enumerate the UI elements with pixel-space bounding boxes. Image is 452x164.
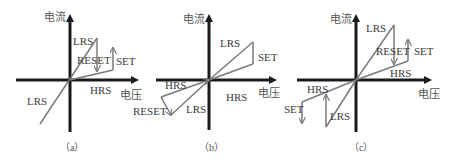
set-label-bottom: SET <box>284 103 304 115</box>
y-axis-label: 电流 <box>330 12 352 26</box>
reset-label: RESET <box>133 105 167 117</box>
panel-c: 电流 电压 LRS RESET SET HRS HRS SET LRS （c） <box>284 12 440 153</box>
caption-b: （b） <box>199 142 224 153</box>
caption-a: （a） <box>60 142 84 153</box>
iv-diagram: 电流 电压 LRS RESET SET HRS LRS （a） 电流 电压 LR… <box>0 0 452 164</box>
y-axis-label: 电流 <box>44 10 66 24</box>
set-label-top: SET <box>414 45 434 57</box>
hrs-label-left: HRS <box>165 79 186 91</box>
reset-label: RESET <box>376 45 410 57</box>
lrs-label: LRS <box>366 22 386 34</box>
lrs-label: LRS <box>220 37 240 49</box>
lrs-label-bottom: LRS <box>27 95 47 107</box>
hrs-label-left: HRS <box>307 83 328 95</box>
hrs-label: HRS <box>90 84 111 96</box>
hrs-label-right: HRS <box>226 91 247 103</box>
hrs-label-right: HRS <box>390 67 411 79</box>
caption-c: （c） <box>349 142 373 153</box>
x-axis-label: 电压 <box>418 88 440 101</box>
set-label: SET <box>258 51 278 63</box>
x-axis-label: 电压 <box>258 87 280 100</box>
panel-b: 电流 电压 LRS SET HRS HRS RESET LRS （b） <box>133 12 280 153</box>
set-label: SET <box>116 55 136 67</box>
y-axis-label: 电流 <box>183 12 205 26</box>
lrs-label-bottom: LRS <box>186 103 206 115</box>
hrs-line-pos <box>209 64 253 80</box>
reset-label: RESET <box>77 54 111 66</box>
x-axis-label: 电压 <box>120 89 142 102</box>
lrs-label-bottom: LRS <box>330 110 350 122</box>
panel-a: 电流 电压 LRS RESET SET HRS LRS （a） <box>16 10 142 153</box>
lrs-label: LRS <box>73 35 93 47</box>
